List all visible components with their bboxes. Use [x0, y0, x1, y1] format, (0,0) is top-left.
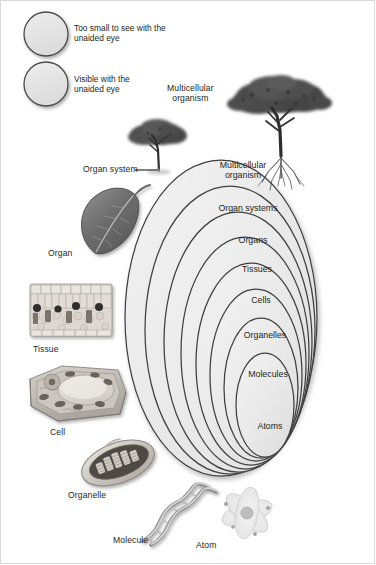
specimen-label-cell: Cell [50, 427, 65, 437]
atom-icon [219, 485, 275, 540]
oval-label-organelles: Organelles [244, 330, 287, 340]
specimen-label-multicellular-organism: Multicellular organism [167, 83, 214, 104]
oval-label-cells: Cells [251, 295, 271, 305]
legend-label-visible: Visible with the unaided eye [74, 74, 130, 94]
specimen-label-atom: Atom [196, 540, 216, 550]
oval-label-molecules: Molecules [248, 369, 288, 379]
legend-label-too-small: Too small to see with the unaided eye [74, 23, 166, 43]
legend-swatch-too-small [24, 12, 68, 56]
oval-label-organ-systems: Organ systems [218, 203, 277, 213]
oval-label-atoms: Atoms [258, 421, 283, 431]
plant-cell-icon [30, 366, 126, 421]
oval-label-multicellular-organism: Multicellular organism [220, 160, 266, 180]
specimen-label-organ-system: Organ system [83, 164, 138, 174]
dna-helix-icon [143, 483, 217, 545]
specimen-label-organ: Organ [48, 248, 72, 258]
specimen-label-tissue: Tissue [33, 344, 59, 354]
leaf-cross-section-icon [30, 284, 112, 336]
specimen-label-organelle: Organelle [68, 490, 106, 500]
legend-swatch-visible [24, 62, 68, 106]
chloroplast-icon [75, 431, 160, 495]
specimen-label-molecule: Molecule [113, 535, 148, 545]
oval-label-organs: Organs [239, 235, 268, 245]
oval-label-tissues: Tissues [242, 264, 272, 274]
